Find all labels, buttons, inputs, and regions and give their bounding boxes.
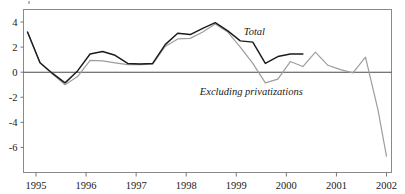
y-axis-tick-label: -2	[9, 92, 18, 103]
chart-container: 420-2-4-6 199519961997199819992000200120…	[0, 0, 405, 194]
series-annotation-excluding: Excluding privatizations	[199, 86, 303, 97]
x-axis-tick-label: 1996	[76, 180, 97, 191]
x-axis-tick-label: 2001	[326, 180, 347, 191]
y-axis-tick-label: -6	[9, 142, 18, 153]
x-axis-tick-label: 1999	[226, 180, 247, 191]
x-axis-tick-label: 2002	[376, 180, 397, 191]
x-axis-ticks	[36, 173, 386, 177]
y-axis-tick-label: 4	[12, 17, 18, 28]
x-axis-tick-label: 2000	[276, 180, 297, 191]
y-axis-tick-label: 2	[12, 42, 17, 53]
y-axis-tick-labels: 420-2-4-6	[9, 17, 19, 153]
y-axis-tick-label: -4	[9, 117, 18, 128]
line-chart: 420-2-4-6 199519961997199819992000200120…	[0, 0, 405, 194]
x-axis-tick-label: 1997	[126, 180, 147, 191]
series-annotation-total: Total	[244, 26, 265, 37]
x-axis-tick-label: 1998	[176, 180, 197, 191]
x-axis-tick-labels: 19951996199719981999200020012002	[26, 180, 397, 191]
y-axis-tick-label: 0	[12, 67, 17, 78]
x-axis-tick-label: 1995	[26, 180, 47, 191]
